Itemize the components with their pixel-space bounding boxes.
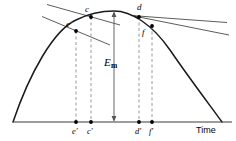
axis-label-e-prime: e′ (72, 127, 78, 136)
curve-point-c-marker (89, 15, 93, 19)
amplitude-label-symbol: E (104, 56, 111, 68)
amplitude-label: Em (104, 57, 117, 68)
curve-label-c: c (85, 5, 89, 14)
tangent-line-c (47, 5, 120, 26)
curve-point-f-marker (150, 24, 154, 28)
x-axis-label: Time (196, 126, 216, 135)
axis-label-c-prime: c′ (87, 127, 93, 136)
tangent-line-d (131, 16, 227, 23)
curve-label-f: f (142, 28, 145, 37)
figure-svg (0, 0, 236, 141)
axis-point-e-prime-marker (74, 120, 78, 124)
curve-point-d-marker (137, 15, 141, 19)
axis-label-f-prime: f′ (149, 127, 153, 136)
amplitude-arrowhead-bottom (112, 116, 117, 122)
amplitude-arrowhead-top (112, 11, 117, 17)
axis-point-d-prime-marker (137, 120, 141, 124)
axis-point-c-prime-marker (89, 120, 93, 124)
axis-label-d-prime: d′ (135, 127, 141, 136)
curve-label-e: e (66, 20, 70, 29)
amplitude-label-subscript: m (111, 61, 117, 70)
curve-label-d: d (137, 3, 142, 12)
curve-point-e-marker (74, 29, 78, 33)
figure-container: e c d f Em e′ c′ d′ f′ Time (0, 0, 236, 141)
axis-point-f-prime-marker (150, 120, 154, 124)
